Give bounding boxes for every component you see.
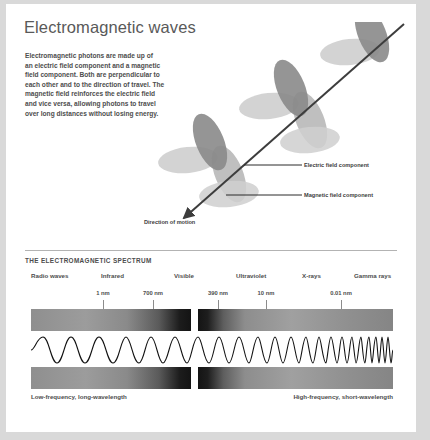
wavelength-tick-mark bbox=[103, 300, 104, 309]
gradient-left-segment bbox=[31, 367, 191, 389]
spectrum-section: THE ELECTROMAGNETIC SPECTRUM Radio waves… bbox=[6, 250, 416, 425]
direction-of-motion-label: Direction of motion bbox=[144, 219, 195, 225]
wavelength-tick-mark bbox=[153, 300, 154, 309]
wavelength-tick-mark bbox=[218, 300, 219, 309]
spectrum-heading: THE ELECTROMAGNETIC SPECTRUM bbox=[25, 257, 152, 264]
spectrum-gradient-bar-top bbox=[31, 309, 393, 331]
spectrum-category-gamma: Gamma rays bbox=[354, 272, 391, 279]
spectrum-category-xrays: X-rays bbox=[302, 272, 321, 279]
electric-field-label: Electric field component bbox=[304, 162, 369, 168]
spectrum-category-visible: Visible bbox=[174, 272, 194, 279]
wavelength-tick-label: 10 nm bbox=[258, 290, 275, 296]
wavelength-tick-label: 0.01 nm bbox=[330, 290, 352, 296]
wavelength-tick-label: 390 nm bbox=[208, 290, 228, 296]
electric-field-lobes bbox=[157, 36, 381, 176]
visible-light-gap bbox=[191, 309, 198, 331]
wavelength-tick-mark bbox=[266, 300, 267, 309]
poster-page: Electromagnetic waves Electromagnetic ph… bbox=[6, 4, 416, 432]
magnetic-field-label: Magnetic field component bbox=[304, 192, 373, 198]
spectrum-gradient-bar-bottom bbox=[31, 367, 393, 389]
direction-of-motion-axis bbox=[184, 24, 404, 218]
electromagnetic-wave-diagram: Electric field component Magnetic field … bbox=[136, 22, 416, 237]
frequency-wave-graphic bbox=[31, 335, 393, 365]
wavelength-tick-mark bbox=[341, 300, 342, 309]
section-divider bbox=[25, 250, 397, 251]
wave-svg bbox=[136, 22, 416, 237]
wavelength-tick-label: 700 nm bbox=[143, 290, 163, 296]
visible-light-gap bbox=[191, 367, 198, 389]
gradient-right-segment bbox=[198, 367, 393, 389]
spectrum-category-infrared: Infrared bbox=[101, 272, 124, 279]
spectrum-category-ultraviolet: Ultraviolet bbox=[236, 272, 266, 279]
wavelength-tick-label: 1 nm bbox=[96, 290, 110, 296]
caption-high-frequency: High-frequency, short-wavelength bbox=[293, 393, 393, 400]
gradient-right-segment bbox=[198, 309, 393, 331]
caption-low-frequency: Low-frequency, long-wavelength bbox=[31, 393, 127, 400]
spectrum-category-radio: Radio waves bbox=[31, 272, 69, 279]
gradient-left-segment bbox=[31, 309, 191, 331]
